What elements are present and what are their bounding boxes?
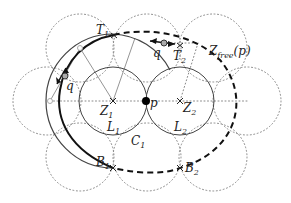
- point-p: [142, 97, 150, 105]
- arrow-icon: [56, 38, 175, 84]
- center-marker-left: [48, 99, 53, 104]
- label-B1: B1: [95, 155, 110, 171]
- label-C1: C1: [131, 134, 145, 150]
- label-q-top: q: [153, 46, 161, 60]
- label-zfree: Zfree(p): [208, 44, 251, 60]
- zfree-left-arc: [59, 35, 114, 168]
- label-p: p: [150, 96, 158, 110]
- label-Z2: Z2: [182, 101, 196, 117]
- construction-lines: [50, 38, 135, 101]
- label-T2: T2: [173, 49, 186, 65]
- label-L2: L2: [173, 120, 187, 136]
- center-marker-top: [78, 46, 83, 51]
- geometry-diagram: T1 T2 q q Z1 Z2 p L1 L2 C1 B1 B2 Zfree(p…: [0, 0, 291, 203]
- label-L1: L1: [106, 120, 120, 136]
- label-Z1: Z1: [99, 104, 113, 120]
- label-q-left: q: [66, 79, 74, 93]
- label-T1: T1: [96, 23, 109, 39]
- label-B2: B2: [184, 161, 199, 177]
- q-top-marker: [161, 40, 167, 46]
